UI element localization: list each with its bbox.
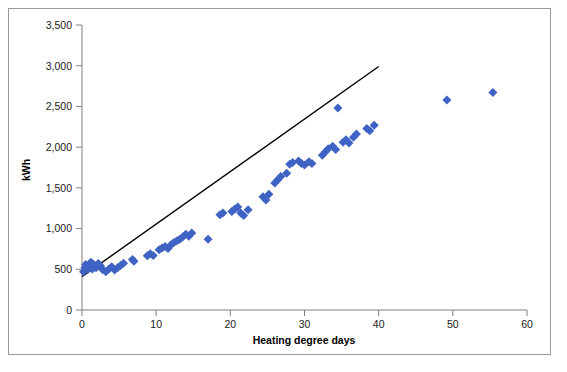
x-axis-title: Heating degree days xyxy=(253,334,356,346)
data-point xyxy=(333,104,342,113)
x-tick-label: 50 xyxy=(447,318,459,330)
data-point xyxy=(442,95,451,104)
chart-frame: 05001,0001,5002,0002,5003,0003,500 01020… xyxy=(0,0,567,372)
x-tick-label: 20 xyxy=(224,318,236,330)
x-tick-label: 60 xyxy=(521,318,533,330)
y-tick-label: 1,500 xyxy=(46,182,72,194)
y-tick-label: 2,000 xyxy=(46,141,72,153)
x-axis-ticks xyxy=(82,310,527,316)
y-axis: 05001,0001,5002,0002,5003,0003,500 xyxy=(46,19,82,316)
y-tick-label: 3,500 xyxy=(46,19,72,31)
y-tick-label: 3,000 xyxy=(46,60,72,72)
x-tick-label: 10 xyxy=(150,318,162,330)
x-tick-label: 30 xyxy=(299,318,311,330)
scatter-markers xyxy=(79,88,497,276)
y-tick-label: 1,000 xyxy=(46,222,72,234)
x-axis-tick-labels: 0102030405060 xyxy=(79,318,533,330)
x-axis: 0102030405060 xyxy=(79,310,533,330)
y-tick-label: 2,500 xyxy=(46,100,72,112)
trendline xyxy=(82,67,379,277)
scatter-plot: 05001,0001,5002,0002,5003,0003,500 01020… xyxy=(0,0,567,372)
data-point xyxy=(488,88,497,97)
y-axis-title: kWh xyxy=(20,159,32,181)
y-tick-label: 0 xyxy=(66,304,72,316)
data-point xyxy=(204,235,213,244)
y-axis-tick-labels: 05001,0001,5002,0002,5003,0003,500 xyxy=(46,19,72,316)
x-tick-label: 0 xyxy=(79,318,85,330)
x-tick-label: 40 xyxy=(373,318,385,330)
y-tick-label: 500 xyxy=(54,263,72,275)
